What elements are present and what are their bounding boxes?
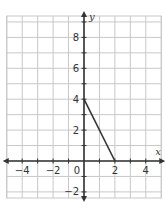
y-tick-label: −2 bbox=[64, 186, 79, 197]
x-tick-label: 2 bbox=[112, 165, 118, 176]
x-axis-arrow-left-icon bbox=[3, 158, 9, 164]
tick-labels: −4−20248642−2xy bbox=[15, 11, 161, 197]
x-axis-arrow-right-icon bbox=[159, 158, 165, 164]
x-tick-label: −4 bbox=[15, 165, 30, 176]
x-tick-label: 0 bbox=[74, 165, 80, 176]
y-tick-label: 4 bbox=[73, 94, 79, 105]
x-tick-label: 4 bbox=[143, 165, 149, 176]
x-axis-label: x bbox=[155, 146, 161, 157]
coordinate-plane: −4−20248642−2xy bbox=[0, 0, 165, 218]
x-tick-label: −2 bbox=[46, 165, 61, 176]
y-axis-arrow-down-icon bbox=[81, 196, 87, 202]
y-tick-label: 6 bbox=[73, 63, 79, 74]
y-tick-label: 2 bbox=[73, 125, 79, 136]
y-tick-label: 8 bbox=[73, 32, 79, 43]
y-axis-arrow-up-icon bbox=[81, 11, 87, 17]
y-axis-label: y bbox=[88, 11, 95, 22]
